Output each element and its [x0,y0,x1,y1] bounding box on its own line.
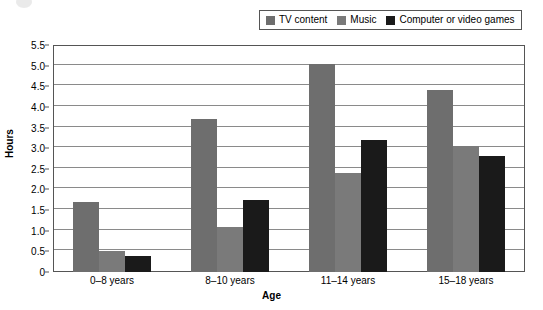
y-axis-tick-label: 4.0 [31,101,45,112]
bar [335,173,361,272]
x-axis-labels: 0–8 years8–10 years11–14 years15–18 year… [53,275,525,289]
y-axis-tick-mark [45,251,49,252]
y-axis-tick-mark [45,127,49,128]
x-axis-tick-label: 8–10 years [205,275,254,286]
y-axis-tick-label: 2.5 [31,163,45,174]
bar [361,140,387,272]
y-axis-tick-label: 3.0 [31,143,45,154]
legend-swatch-tv-content [266,16,275,25]
y-axis-labels: 00.51.01.52.02.53.03.54.04.55.05.5 [0,45,49,272]
bar [453,146,479,272]
legend-label-computer-or-video-games: Computer or video games [399,15,514,25]
y-axis-tick-mark [45,106,49,107]
bar [309,64,335,272]
legend-item-computer-or-video-games: Computer or video games [386,15,514,25]
bar [217,227,243,272]
bar [479,156,505,272]
y-axis-tick-label: 5.5 [31,40,45,51]
legend-label-music: Music [350,15,376,25]
x-axis-tick-label: 0–8 years [90,275,134,286]
page-scan-artifact [16,0,32,8]
y-axis-tick-mark [45,210,49,211]
y-axis-tick-mark [45,65,49,66]
y-axis-tick-label: 2.0 [31,184,45,195]
x-axis-tick-label: 15–18 years [438,275,493,286]
bar [99,251,125,272]
y-axis-tick-mark [45,189,49,190]
y-axis-tick-label: 4.5 [31,81,45,92]
y-axis-tick-mark [45,86,49,87]
y-axis-tick-label: 0.5 [31,246,45,257]
legend-swatch-music [337,16,346,25]
legend-swatch-computer-or-video-games [386,16,395,25]
y-axis-tick-label: 1.5 [31,205,45,216]
y-axis-tick-label: 1.0 [31,225,45,236]
bar [73,202,99,272]
bar [243,200,269,272]
chart-legend: TV content Music Computer or video games [259,10,522,30]
y-axis-tick-mark [45,168,49,169]
y-axis-tick-mark [45,272,49,273]
legend-item-music: Music [337,15,376,25]
y-axis-title: Hours [4,129,15,158]
y-axis-tick-label: 3.5 [31,122,45,133]
y-axis-tick-label: 5.0 [31,60,45,71]
bars-layer [53,45,525,272]
x-axis-title: Age [0,290,543,301]
legend-label-tv-content: TV content [279,15,327,25]
bar [191,119,217,272]
x-axis-tick-label: 11–14 years [321,275,375,286]
legend-item-tv-content: TV content [266,15,327,25]
bar-chart: TV content Music Computer or video games… [0,0,543,310]
y-axis-tick-mark [45,45,49,46]
bar [125,256,151,273]
bar [427,90,453,272]
y-axis-tick-mark [45,230,49,231]
y-axis-tick-mark [45,148,49,149]
